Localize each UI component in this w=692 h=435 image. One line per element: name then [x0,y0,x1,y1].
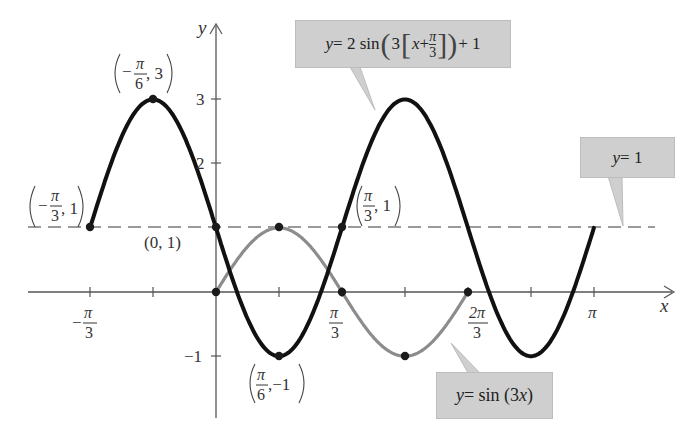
svg-text:π: π [364,187,373,204]
callout-plus: + [420,34,430,54]
svg-text:−: − [38,196,48,215]
x-tick-label-pi-over-3: π 3 [329,304,343,341]
point-label-pi6-neg1: π 6 ,−1 [250,364,304,403]
y-tick-label-neg1: −1 [184,347,202,366]
x-tick-label-2pi-over-3: 2π 3 [468,304,488,341]
callout-pointer-midline [608,176,623,226]
point-label-neg-pi3-1: − π 3 , 1 [30,186,83,227]
svg-text:π: π [84,304,93,321]
callout-coef: 3 [392,34,401,54]
svg-text:π: π [330,304,339,321]
svg-text:−: − [72,313,82,332]
callout-var-x: x [519,385,527,406]
svg-text:π: π [51,187,60,204]
svg-text:,−1: ,−1 [268,375,290,394]
x-tick-label-neg-pi-over-3: − π 3 [72,304,97,341]
svg-text:π: π [136,55,145,72]
point-label-0-1: (0, 1) [144,233,181,252]
callout-eq-text: = 1 [620,148,642,168]
callout-midline-equation: y = 1 [580,137,675,178]
svg-text:π: π [257,366,266,383]
callout-var-y: y [613,148,621,168]
x-tick-label-pi: π [588,303,597,322]
callout-var-x: x [412,34,420,54]
svg-text:6: 6 [135,75,143,92]
callout-frac-num: π [429,29,436,45]
callout-frac-den: 3 [429,45,436,60]
callout-close-paren: ) [527,385,533,406]
svg-text:3: 3 [85,324,93,341]
svg-text:, 3: , 3 [146,64,163,83]
svg-text:2π: 2π [469,304,486,321]
svg-text:3: 3 [473,324,481,341]
svg-text:3: 3 [51,207,59,224]
point-label-pi3-1: π 3 , 1 [357,186,400,226]
callout-eq-text: = 2 sin [333,34,379,54]
callout-var-y: y [456,385,464,406]
svg-text:, 1: , 1 [374,196,391,215]
callout-tail: + 1 [458,34,480,54]
callout-eq-text: = sin (3 [464,385,519,406]
callout-pointer-transformed [350,67,375,110]
callout-base-equation: y = sin (3x) [436,372,553,419]
y-axis-label: y [196,17,207,38]
svg-text:, 1: , 1 [61,199,78,218]
svg-text:3: 3 [331,324,339,341]
y-tick-label-3: 3 [196,90,205,109]
x-axis-label: x [659,295,669,316]
svg-text:6: 6 [257,386,265,403]
svg-text:3: 3 [364,207,372,224]
callout-var-y: y [326,34,334,54]
svg-text:−: − [122,62,132,81]
callout-pointer-base [451,343,480,373]
callout-transformed-equation: y = 2 sin(3[x + π3]) + 1 [295,20,511,68]
y-tick-label-2: 2 [196,154,205,173]
point-label-neg-pi6-3: − π 6 , 3 [115,54,172,93]
